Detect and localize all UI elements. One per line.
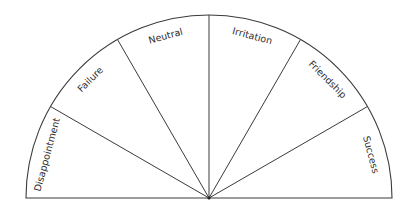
sector-label-neutral: Neutral <box>147 26 184 46</box>
sector-divider <box>118 40 210 198</box>
sector-labels: Disappointment Failure Neutral Irritatio… <box>32 25 382 192</box>
sector-label-disappointment: Disappointment <box>32 116 62 192</box>
center-point <box>207 196 210 199</box>
sector-divider <box>209 107 367 199</box>
sector-dividers <box>51 15 368 198</box>
sector-label-success: Success <box>361 135 382 175</box>
sector-divider <box>209 40 301 198</box>
emotion-semicircle-diagram: Disappointment Failure Neutral Irritatio… <box>0 0 414 207</box>
sector-label-irritation: Irritation <box>231 25 273 46</box>
sector-divider <box>51 107 209 199</box>
sector-label-friendship: Friendship <box>307 58 349 100</box>
